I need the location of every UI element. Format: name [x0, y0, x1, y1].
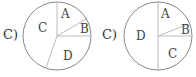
slice-label-a: A: [60, 7, 70, 21]
pie-chart-right: A B C D: [98, 0, 196, 77]
slice-label-c: C: [38, 21, 47, 35]
slice-label-a: A: [160, 7, 170, 21]
pie-chart-left: A B C D: [0, 0, 98, 77]
slice-label-d: D: [136, 29, 146, 43]
slice-label-b: B: [80, 22, 89, 36]
slice-label-c: C: [168, 47, 177, 61]
slice-label-d: D: [63, 49, 73, 63]
slice-label-b: B: [181, 23, 190, 37]
